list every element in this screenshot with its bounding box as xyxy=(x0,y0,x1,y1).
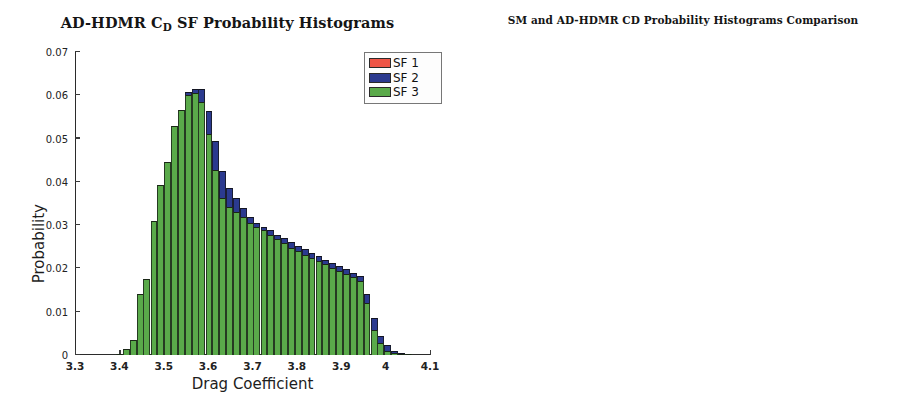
histogram-bar-segment xyxy=(226,207,233,355)
histogram-bar xyxy=(198,89,205,355)
histogram-bar-segment xyxy=(405,354,412,355)
x-tick-label: 3.6 xyxy=(199,360,218,372)
histogram-bar-segment xyxy=(336,271,343,355)
y-tick xyxy=(75,51,80,52)
chart-title-left-subscript: D xyxy=(163,21,172,33)
x-tick-label: 3.9 xyxy=(332,360,351,372)
legend-swatch-icon xyxy=(369,58,391,68)
legend-item[interactable]: SF 1 xyxy=(369,56,437,71)
chart-title-right: SM and AD-HDMR CD Probability Histograms… xyxy=(455,14,911,26)
legend-label: SF 1 xyxy=(393,56,419,70)
histogram-bar xyxy=(364,294,371,355)
histogram-bar-segment xyxy=(377,343,384,355)
histogram-bar xyxy=(212,141,219,355)
legend-item[interactable]: SF 2 xyxy=(369,71,437,86)
histogram-bar-segment xyxy=(143,279,150,355)
histogram-bar xyxy=(226,188,233,355)
histogram-bar xyxy=(322,260,329,355)
histogram-bar-segment xyxy=(350,277,357,355)
y-tick xyxy=(75,224,80,225)
histogram-bar xyxy=(336,266,343,355)
histogram-bar-segment xyxy=(212,170,219,355)
chart-title-left-pre: AD-HDMR C xyxy=(61,14,163,31)
y-tick-label: 0.03 xyxy=(46,220,68,231)
histogram-bar xyxy=(143,279,150,355)
chart-panel-right: SM and AD-HDMR CD Probability Histograms… xyxy=(455,0,911,414)
histogram-bar-segment xyxy=(267,235,274,355)
x-tick-label: 3.4 xyxy=(110,360,129,372)
chart-panel-left: AD-HDMR CD SF Probability Histograms 00.… xyxy=(0,0,455,414)
y-tick xyxy=(75,181,80,182)
chart-title-left: AD-HDMR CD SF Probability Histograms xyxy=(0,14,455,33)
histogram-bar xyxy=(281,238,288,355)
histogram-bar xyxy=(309,253,316,355)
y-tick xyxy=(75,137,80,138)
histogram-bar xyxy=(391,351,398,355)
x-tick-label: 3.7 xyxy=(243,360,262,372)
x-tick-label: 4.1 xyxy=(421,360,440,372)
y-tick-label: 0.04 xyxy=(46,176,68,187)
histogram-bar-segment xyxy=(309,258,316,355)
histogram-bar xyxy=(157,185,164,355)
histogram-bar-segment xyxy=(157,185,164,355)
figure-root: AD-HDMR CD SF Probability Histograms 00.… xyxy=(0,0,911,414)
y-axis-label-left: Probability xyxy=(30,204,48,283)
y-tick-label: 0.06 xyxy=(46,90,68,101)
histogram-bar-segment xyxy=(322,264,329,355)
histogram-bar-segment xyxy=(198,102,205,355)
x-tick xyxy=(430,350,431,355)
x-tick-label: 3.3 xyxy=(66,360,85,372)
chart-title-left-post: SF Probability Histograms xyxy=(172,14,394,31)
x-tick-label: 3.8 xyxy=(288,360,307,372)
x-axis-label-left: Drag Coefficient xyxy=(192,375,314,393)
histogram-bar xyxy=(377,336,384,355)
histogram-bar xyxy=(130,340,137,355)
y-tick xyxy=(75,267,80,268)
legend-label: SF 2 xyxy=(393,71,419,85)
x-tick-label: 3.5 xyxy=(154,360,173,372)
y-tick xyxy=(75,94,80,95)
legend-left[interactable]: SF 1SF 2SF 3 xyxy=(364,52,442,104)
histogram-bar xyxy=(405,354,412,355)
histogram-bar xyxy=(295,246,302,355)
histogram-bar-segment xyxy=(240,217,247,356)
legend-swatch-icon xyxy=(369,73,391,83)
x-tick-label: 4 xyxy=(382,360,389,372)
histogram-bar xyxy=(185,92,192,355)
histogram-bar xyxy=(116,354,123,355)
histogram-bar xyxy=(171,126,178,355)
histogram-bar-segment xyxy=(364,303,371,355)
histogram-bar-segment xyxy=(171,126,178,355)
y-tick xyxy=(75,311,80,312)
histogram-bar xyxy=(267,230,274,355)
y-tick-label: 0.02 xyxy=(46,263,68,274)
histogram-bar-segment xyxy=(185,95,192,355)
histogram-bar-segment xyxy=(116,354,123,355)
histogram-bar-segment xyxy=(281,243,288,355)
legend-item[interactable]: SF 3 xyxy=(369,85,437,100)
histogram-bar xyxy=(240,208,247,355)
y-tick-label: 0.07 xyxy=(46,47,68,58)
legend-label: SF 3 xyxy=(393,85,419,99)
histogram-bar-segment xyxy=(391,353,398,355)
y-tick-label: 0 xyxy=(62,350,68,361)
legend-swatch-icon xyxy=(369,87,391,97)
histogram-bar-segment xyxy=(295,251,302,355)
y-tick-label: 0.01 xyxy=(46,306,68,317)
histogram-bar xyxy=(253,223,260,355)
x-tick xyxy=(75,350,76,355)
histogram-bar-segment xyxy=(253,227,260,355)
histogram-bar-segment xyxy=(130,340,137,355)
y-tick-label: 0.05 xyxy=(46,133,68,144)
histogram-bar xyxy=(350,273,357,355)
